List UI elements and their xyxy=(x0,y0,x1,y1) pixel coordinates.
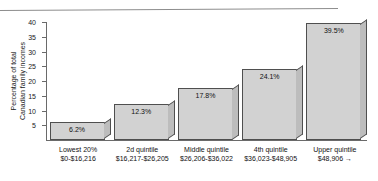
y-axis-title-line-2: Canadian family incomes xyxy=(18,42,25,120)
x-axis-category-3: Middle quintile xyxy=(184,146,229,153)
bar-side-face-3 xyxy=(232,84,239,139)
x-axis-label-2: 2d quintile$16,217-$26,205 xyxy=(106,146,178,163)
x-axis-category-2: 2d quintile xyxy=(126,146,158,153)
x-axis-label-1: Lowest 20%$0-$16,216 xyxy=(42,146,114,163)
x-axis-label-3: Middle quintile$26,206-$36,022 xyxy=(170,146,242,163)
bar-value-label-5: 39.5% xyxy=(307,27,360,35)
bar-side-face-1 xyxy=(104,118,111,139)
x-axis-range-4: $36,023-$48,905 xyxy=(235,155,307,164)
y-tick-label-5: 5 xyxy=(32,122,36,129)
y-tick-30: 30 xyxy=(42,52,46,53)
y-tick-10: 10 xyxy=(42,111,46,112)
bar-5: 39.5% xyxy=(306,23,361,140)
x-axis-range-1: $0-$16,216 xyxy=(42,155,114,164)
plot-area: Percentage of total Canadian family inco… xyxy=(46,22,367,140)
y-tick-label-35: 35 xyxy=(28,33,36,40)
x-axis-category-4: 4th quintile xyxy=(254,146,288,153)
bar-4: 24.1% xyxy=(242,69,297,140)
y-tick-25: 25 xyxy=(42,66,46,67)
bar-value-label-4: 24.1% xyxy=(243,73,296,81)
bar-side-face-2 xyxy=(168,100,175,139)
top-divider-rule xyxy=(0,8,338,11)
y-axis-title: Percentage of total Canadian family inco… xyxy=(10,42,27,120)
y-tick-15: 15 xyxy=(42,96,46,97)
y-tick-label-25: 25 xyxy=(28,63,36,70)
bar-side-face-5 xyxy=(360,20,367,139)
x-axis-category-1: Lowest 20% xyxy=(59,146,97,153)
bar-value-label-3: 17.8% xyxy=(179,92,232,100)
bar-side-face-4 xyxy=(296,65,303,139)
y-tick-label-20: 20 xyxy=(28,78,36,85)
y-tick-20: 20 xyxy=(42,81,46,82)
y-tick-label-30: 30 xyxy=(28,48,36,55)
x-axis-label-4: 4th quintile$36,023-$48,905 xyxy=(235,146,307,163)
y-tick-label-15: 15 xyxy=(28,92,36,99)
y-tick-label-40: 40 xyxy=(28,19,36,26)
bar-2: 12.3% xyxy=(114,104,169,140)
x-axis-range-3: $26,206-$36,022 xyxy=(170,155,242,164)
y-tick-label-10: 10 xyxy=(28,107,36,114)
y-axis-title-line-1: Percentage of total xyxy=(10,52,17,111)
y-tick-35: 35 xyxy=(42,37,46,38)
chart-figure: Percentage of total Canadian family inco… xyxy=(0,0,378,181)
y-tick-40: 40 xyxy=(42,22,46,23)
y-tick-5: 5 xyxy=(42,125,46,126)
x-axis-range-2: $16,217-$26,205 xyxy=(106,155,178,164)
bar-value-label-2: 12.3% xyxy=(115,108,168,116)
x-axis-line xyxy=(46,140,367,141)
x-axis-category-5: Upper quintile xyxy=(313,146,356,153)
y-axis-line xyxy=(46,22,47,140)
bar-1: 6.2% xyxy=(50,122,105,140)
x-axis-range-5: $48,906 → xyxy=(299,155,371,164)
x-axis-label-5: Upper quintile$48,906 → xyxy=(299,146,371,163)
bar-value-label-1: 6.2% xyxy=(51,126,104,134)
bar-3: 17.8% xyxy=(178,88,233,141)
